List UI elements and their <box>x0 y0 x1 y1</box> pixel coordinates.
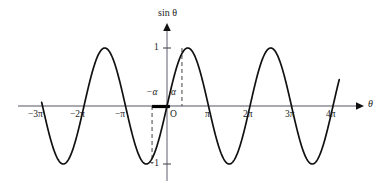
y-tick-label-1: 1 <box>154 43 159 53</box>
y-tick-label-neg1: −1 <box>149 159 159 169</box>
alpha-label: α <box>171 88 176 98</box>
y-axis-arrow-icon <box>163 23 171 31</box>
x-tick-label-neg3pi: −3π <box>28 110 43 120</box>
neg-alpha-label: −α <box>146 88 157 98</box>
sine-graph-figure: sin θ θ −3π −2π −π π 2π 3π 4π 1 −1 −α α … <box>0 0 387 194</box>
x-tick-label-pi: π <box>205 110 210 120</box>
sine-graph-canvas <box>0 0 387 194</box>
x-axis-arrow-icon <box>356 102 364 110</box>
y-axis-title: sin θ <box>158 8 177 18</box>
x-tick-label-3pi: 3π <box>285 110 295 120</box>
origin-label: O <box>170 110 177 120</box>
x-axis-title: θ <box>368 99 373 109</box>
y-axis <box>163 23 171 181</box>
x-tick-label-4pi: 4π <box>326 110 336 120</box>
x-tick-label-2pi: 2π <box>243 110 253 120</box>
x-tick-label-neg2pi: −2π <box>70 110 85 120</box>
x-tick-label-negpi: −π <box>115 110 125 120</box>
